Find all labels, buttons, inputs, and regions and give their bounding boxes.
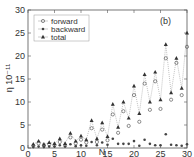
triangle-marker <box>127 116 131 120</box>
triangle-marker <box>174 56 178 60</box>
triangle-marker <box>169 91 173 95</box>
triangle-marker <box>143 72 147 76</box>
triangle-marker <box>95 137 99 141</box>
triangle-marker <box>68 131 72 135</box>
dot-marker <box>43 146 46 149</box>
dot-marker <box>32 146 35 149</box>
y-axis-label: η 10⁻¹¹ <box>4 64 14 93</box>
dot-marker <box>165 133 168 136</box>
dot-marker <box>69 143 72 146</box>
dot-marker <box>112 138 115 141</box>
dot-marker <box>85 144 88 147</box>
y-tick-label: 5 <box>20 120 25 130</box>
chart: 051015202530051015202530 (b) N η 10⁻¹¹ f… <box>0 0 194 157</box>
x-tick-label: 25 <box>155 149 165 157</box>
circle-marker <box>79 138 82 141</box>
triangle-marker <box>185 31 189 35</box>
legend: forwardbackwardtotal <box>34 15 89 42</box>
circle-marker <box>69 136 72 139</box>
dot-marker <box>37 145 40 148</box>
circle-marker <box>101 128 104 131</box>
dot-marker <box>159 144 162 147</box>
circle-marker <box>111 113 114 116</box>
circle-marker <box>85 141 88 144</box>
circle-marker <box>180 94 183 97</box>
circle-marker <box>132 94 135 97</box>
circle-marker <box>58 140 61 143</box>
triangle-marker <box>180 86 184 90</box>
dot-marker <box>180 144 183 147</box>
y-tick-label: 25 <box>15 28 25 38</box>
circle-marker <box>106 139 109 142</box>
triangle-marker <box>132 84 136 88</box>
dot-marker <box>133 140 136 143</box>
dot-marker <box>127 143 130 146</box>
triangle-marker <box>31 142 35 146</box>
triangle-marker <box>37 139 41 143</box>
circle-marker <box>117 131 120 134</box>
circle-marker <box>127 124 130 127</box>
triangle-marker <box>100 121 104 125</box>
dot-marker <box>106 143 109 146</box>
circle-marker <box>122 110 125 113</box>
dot-marker <box>42 28 45 31</box>
y-tick-label: 0 <box>20 143 25 153</box>
x-tick-label: 20 <box>129 149 139 157</box>
dot-marker <box>154 144 157 147</box>
x-tick-label: 0 <box>25 149 30 157</box>
triangle-marker <box>79 134 83 138</box>
x-tick-label: 10 <box>76 149 86 157</box>
dot-marker <box>59 144 62 147</box>
y-tick-label: 15 <box>15 74 25 84</box>
circle-marker <box>90 127 93 130</box>
total-line <box>33 33 187 144</box>
dot-marker <box>122 143 125 146</box>
triangle-marker <box>53 141 57 145</box>
triangle-marker <box>116 125 120 129</box>
dot-marker <box>149 143 152 146</box>
x-axis-label: N <box>99 147 106 157</box>
circle-marker <box>95 140 98 143</box>
triangle-marker <box>58 137 62 141</box>
triangle-marker <box>137 111 141 115</box>
x-tick-label: 5 <box>52 149 57 157</box>
dot-marker <box>175 144 178 147</box>
triangle-marker <box>42 142 46 146</box>
dot-marker <box>64 145 67 148</box>
y-tick-label: 10 <box>15 97 25 107</box>
triangle-marker <box>47 140 51 144</box>
triangle-marker <box>63 141 67 145</box>
panel-label: (b) <box>160 16 171 26</box>
legend-entry-total: total <box>51 33 66 42</box>
dot-marker <box>170 143 173 146</box>
triangle-marker <box>164 42 168 46</box>
circle-marker <box>148 108 151 111</box>
dot-marker <box>53 145 56 148</box>
dot-marker <box>186 143 189 146</box>
dot-marker <box>101 141 104 144</box>
triangle-marker <box>111 102 115 106</box>
triangle-marker <box>148 100 152 104</box>
dot-marker <box>74 145 77 148</box>
triangle-marker <box>121 100 125 104</box>
triangle-marker <box>106 134 110 138</box>
dot-marker <box>117 143 120 146</box>
circle-marker <box>159 107 162 110</box>
dot-marker <box>80 144 83 147</box>
dot-marker <box>143 138 146 141</box>
x-tick-label: 30 <box>182 149 192 157</box>
triangle-marker <box>84 138 88 142</box>
triangle-marker <box>90 118 94 122</box>
triangle-marker <box>153 70 157 74</box>
y-tick-label: 20 <box>15 51 25 61</box>
dot-marker <box>90 141 93 144</box>
triangle-marker <box>159 98 163 102</box>
dot-marker <box>48 145 51 148</box>
circle-marker <box>138 120 141 123</box>
circle-marker <box>170 98 173 101</box>
dot-marker <box>138 144 141 147</box>
circle-marker <box>154 80 157 83</box>
y-tick-label: 30 <box>15 5 25 15</box>
